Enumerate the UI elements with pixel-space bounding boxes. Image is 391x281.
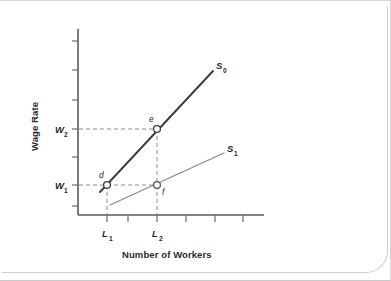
curve-s1-label-group: S 1 bbox=[227, 143, 238, 157]
x-axis-title: Number of Workers bbox=[122, 249, 212, 260]
point-d-marker bbox=[104, 182, 111, 189]
y-tick-label-w2-group: W 2 bbox=[55, 124, 68, 138]
x-tick-label-l1: L bbox=[102, 228, 108, 239]
x-tick-label-l2: L bbox=[152, 228, 158, 239]
point-f-marker bbox=[154, 182, 161, 189]
curve-s0-subscript: 0 bbox=[223, 67, 227, 74]
economics-supply-curve-chart: d e f S 0 S 1 W 2 W 1 L 1 L 2 Wa bbox=[0, 1, 391, 281]
curve-s1 bbox=[110, 153, 224, 205]
point-e-label: e bbox=[149, 114, 154, 124]
curve-s1-subscript: 1 bbox=[234, 150, 238, 157]
x-tick-label-l1-subscript: 1 bbox=[109, 235, 113, 242]
y-tick-label-w1-subscript: 1 bbox=[64, 187, 68, 194]
point-e-marker bbox=[154, 126, 161, 133]
x-axis-ticks bbox=[107, 215, 243, 222]
y-axis-title: Wage Rate bbox=[29, 102, 40, 151]
figure-card: d e f S 0 S 1 W 2 W 1 L 1 L 2 Wa bbox=[0, 0, 391, 281]
y-axis-ticks bbox=[72, 41, 78, 206]
curve-s0-label-group: S 0 bbox=[216, 60, 227, 74]
y-tick-label-w2-subscript: 2 bbox=[64, 131, 68, 138]
point-f-label: f bbox=[162, 187, 166, 197]
curve-s1-label: S bbox=[227, 143, 234, 154]
x-tick-label-l2-group: L 2 bbox=[152, 228, 163, 242]
point-d-label: d bbox=[99, 170, 104, 180]
y-tick-label-w1-group: W 1 bbox=[55, 180, 68, 194]
x-tick-label-l2-subscript: 2 bbox=[159, 235, 163, 242]
x-tick-label-l1-group: L 1 bbox=[102, 228, 113, 242]
curve-s0-label: S bbox=[216, 60, 223, 71]
